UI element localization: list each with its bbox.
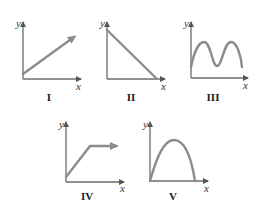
ramp-then-flat-line [66, 146, 116, 177]
graph-label: I [47, 91, 51, 103]
y-axis-label: y [183, 17, 189, 29]
x-axis-label: x [119, 182, 125, 194]
y-axis-label: y [142, 118, 148, 130]
graphs-figure: y x I y x II y x III y x IV y x V [0, 0, 259, 214]
graph-iv: y x IV [58, 118, 125, 202]
y-axis-label: y [99, 17, 105, 29]
y-axis-label: y [58, 118, 64, 130]
parabola-curve [150, 140, 195, 181]
x-axis-label: x [203, 182, 209, 194]
graph-label: V [169, 190, 177, 202]
graph-label: III [207, 91, 220, 103]
graph-label: II [127, 91, 136, 103]
graph-ii: y x II [99, 17, 166, 103]
decreasing-line [107, 30, 157, 79]
x-axis-label: x [242, 79, 248, 91]
increasing-line [23, 37, 74, 74]
graph-label: IV [81, 190, 93, 202]
x-axis-label: x [75, 80, 81, 92]
x-axis-label: x [160, 80, 166, 92]
y-axis-label: y [15, 17, 21, 29]
graph-iii: y x III [183, 17, 248, 103]
wave-curve [191, 42, 242, 67]
graph-v: y x V [142, 118, 209, 202]
graph-i: y x I [15, 17, 81, 103]
